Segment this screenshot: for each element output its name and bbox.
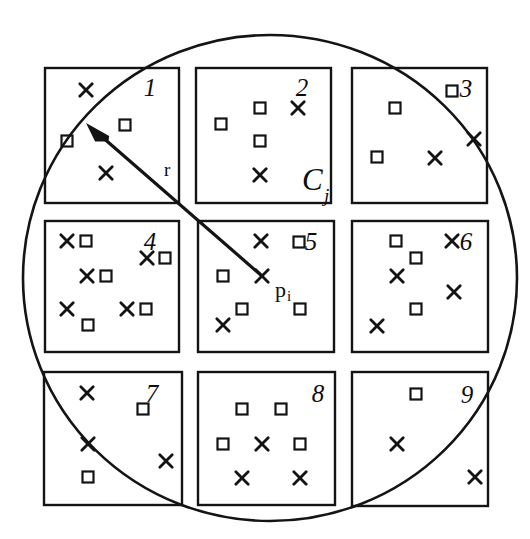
grid-cell-number-9: 9 bbox=[461, 381, 474, 408]
grid-cell-number-2: 2 bbox=[296, 74, 309, 101]
grid-cell-1[interactable]: 1 bbox=[45, 68, 179, 203]
grid-range-query-diagram: 123456789 r p i C j bbox=[0, 0, 530, 539]
grid-cell-4[interactable]: 4 bbox=[45, 221, 179, 352]
grid-cell-number-8: 8 bbox=[312, 380, 325, 407]
diagram-canvas: 123456789 r p i C j bbox=[0, 0, 530, 539]
grid-cell-6[interactable]: 6 bbox=[352, 221, 488, 352]
grid-cell-number-5: 5 bbox=[305, 228, 318, 255]
grid-cell-8[interactable]: 8 bbox=[198, 372, 335, 505]
grid-cell-box-7[interactable] bbox=[44, 372, 182, 505]
grid-cell-number-6: 6 bbox=[460, 228, 473, 255]
point-label-letter: p bbox=[275, 277, 286, 302]
grid-cell-9[interactable]: 9 bbox=[352, 372, 488, 506]
cell-identifier-letter: C bbox=[302, 162, 323, 197]
point-label-subscript: i bbox=[287, 288, 291, 304]
radius-label: r bbox=[164, 159, 171, 180]
grid-cell-number-4: 4 bbox=[144, 228, 157, 255]
cell-grid: 123456789 bbox=[44, 68, 488, 506]
grid-cell-7[interactable]: 7 bbox=[44, 372, 182, 505]
grid-cell-number-3: 3 bbox=[459, 75, 473, 102]
grid-cell-number-1: 1 bbox=[144, 74, 157, 101]
grid-cell-3[interactable]: 3 bbox=[352, 68, 487, 203]
grid-cell-5[interactable]: 5 bbox=[198, 221, 334, 352]
